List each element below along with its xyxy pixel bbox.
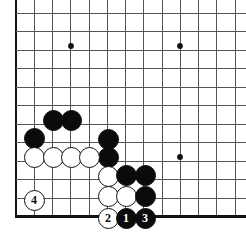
white-stone-c2r9 xyxy=(24,147,45,168)
black-stone-move-3: 3 xyxy=(135,208,156,229)
black-stone-c8r11 xyxy=(135,186,156,207)
black-stone-c8r10 xyxy=(135,165,156,186)
stone-layer: 4213 xyxy=(0,0,246,240)
move-number-label-1: 1 xyxy=(123,212,129,224)
move-number-label-4: 4 xyxy=(31,194,37,206)
black-stone-move-1: 1 xyxy=(116,208,137,229)
white-stone-c5r9 xyxy=(79,147,100,168)
black-stone-c6r9 xyxy=(98,147,119,168)
black-stone-c7r10 xyxy=(116,165,137,186)
move-number-label-3: 3 xyxy=(142,212,148,224)
black-stone-c2r8 xyxy=(24,128,45,149)
black-stone-c4r7 xyxy=(61,110,82,131)
move-number-label-2: 2 xyxy=(105,212,111,224)
go-board-diagram: 4213 xyxy=(0,0,246,240)
white-stone-move-4: 4 xyxy=(24,190,45,211)
white-stone-c7r11 xyxy=(116,186,137,207)
